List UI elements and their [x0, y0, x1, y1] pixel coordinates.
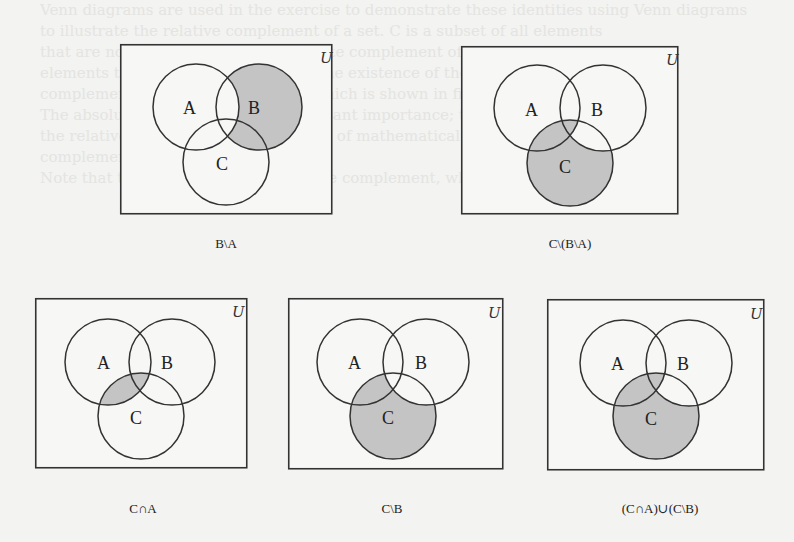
set-b-label: B	[248, 98, 260, 118]
caption-c-minus-b: C\B	[382, 501, 403, 517]
universe-label: U	[232, 303, 246, 321]
universe-label: U	[750, 305, 764, 323]
bg-text-line: Venn diagrams are used in the exercise t…	[0, 0, 794, 21]
venn-svg: U A B C	[120, 44, 334, 216]
set-c-label: C	[645, 409, 657, 429]
venn-svg: U A B C	[461, 46, 681, 218]
caption-c-intersect-a-union-c-minus-b: (C∩A)∪(C\B)	[622, 501, 699, 517]
set-c-label: C	[130, 408, 142, 428]
set-a-label: A	[97, 353, 110, 373]
venn-svg: U A B C	[288, 298, 506, 472]
universe-label: U	[320, 49, 334, 67]
set-c-label: C	[559, 157, 571, 177]
set-b-label: B	[591, 100, 603, 120]
set-a-label: A	[611, 354, 624, 374]
set-a-label: A	[348, 353, 361, 373]
bg-text-line: to illustrate the relative complement of…	[0, 21, 794, 42]
set-a-label: A	[183, 98, 196, 118]
set-b-label: B	[677, 354, 689, 374]
venn-svg: U A B C	[35, 298, 249, 470]
caption-b-minus-a: B\A	[215, 236, 237, 252]
universe-label: U	[666, 51, 680, 69]
universe-label: U	[488, 304, 502, 322]
set-c-label: C	[382, 408, 394, 428]
set-c-label: C	[216, 154, 228, 174]
caption-c-intersect-a: C∩A	[129, 501, 156, 517]
set-b-label: B	[415, 353, 427, 373]
set-b-label: B	[161, 353, 173, 373]
set-a-label: A	[525, 100, 538, 120]
caption-c-minus-b-minus-a: C\(B\A)	[549, 236, 592, 252]
venn-svg: U A B C	[547, 299, 767, 473]
